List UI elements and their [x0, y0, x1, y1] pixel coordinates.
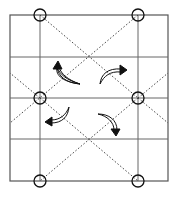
- fold-arrow-down-left-icon: [45, 107, 69, 126]
- fold-diagram: [0, 0, 176, 200]
- fold-arrow-down-right-icon: [98, 114, 120, 136]
- fold-arrow-up-right-icon: [100, 65, 127, 84]
- diagram-svg: [0, 0, 176, 200]
- fold-arrow-up-left-icon: [53, 61, 80, 84]
